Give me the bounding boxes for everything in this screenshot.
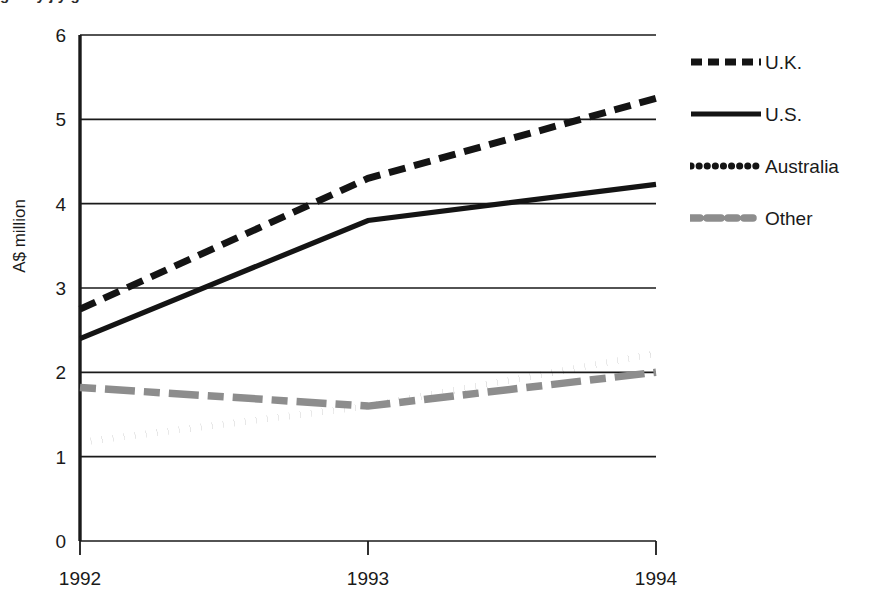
x-tick-label: 1992	[59, 568, 101, 589]
legend-label: U.K.	[765, 53, 802, 72]
legend-swatch-dotted-icon	[690, 159, 762, 173]
y-tick-label: 3	[55, 278, 66, 299]
legend-label: Australia	[765, 157, 839, 176]
line-chart-figure: A$ million 0123456 199219931994 U.K.U.S.…	[0, 0, 871, 592]
legend-item-other[interactable]: Other	[690, 192, 871, 244]
y-tick-labels: 0123456	[55, 25, 66, 552]
legend-item-uk[interactable]: U.K.	[690, 36, 871, 88]
gridlines	[80, 35, 656, 541]
y-tick-label: 6	[55, 25, 66, 46]
legend-label: Other	[765, 209, 813, 228]
y-tick-label: 4	[55, 194, 66, 215]
y-tick-label: 0	[55, 531, 66, 552]
x-tick-labels: 199219931994	[59, 568, 678, 589]
legend-item-australia[interactable]: Australia	[690, 140, 871, 192]
legend-swatch-solid-icon	[690, 107, 762, 121]
legend-swatch-dashed-icon	[690, 55, 762, 69]
x-tick-label: 1994	[635, 568, 678, 589]
series-group	[80, 98, 656, 442]
legend-swatch-dashdot-icon	[690, 211, 762, 225]
series-line-australia	[80, 354, 656, 443]
y-tick-label: 1	[55, 447, 66, 468]
series-line-us	[80, 184, 656, 338]
y-tick-label: 5	[55, 109, 66, 130]
legend-label: U.S.	[765, 105, 802, 124]
y-tick-label: 2	[55, 362, 66, 383]
x-tick-marks	[80, 541, 656, 555]
series-line-other	[80, 372, 656, 406]
x-tick-label: 1993	[347, 568, 389, 589]
chart-legend: U.K.U.S.AustraliaOther	[690, 36, 871, 244]
legend-item-us[interactable]: U.S.	[690, 88, 871, 140]
